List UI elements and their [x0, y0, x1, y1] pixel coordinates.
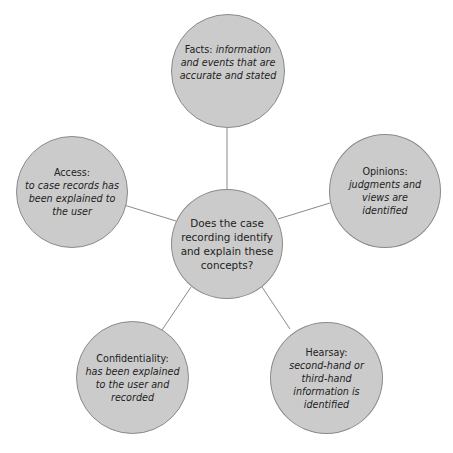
connector-confidentiality: [162, 287, 191, 330]
opinions-title: Opinions:: [362, 165, 407, 178]
connector-hearsay: [262, 287, 290, 329]
connector-access: [124, 205, 176, 221]
hearsay-title: Hearsay:: [305, 346, 347, 359]
opinions-desc: judgments and views are identified: [336, 178, 434, 217]
node-opinions: Opinions: judgments and views are identi…: [329, 134, 441, 248]
facts-title: Facts:: [185, 44, 216, 55]
facts-text: Facts: information and events that are a…: [178, 43, 278, 82]
node-center-question: Does the case recording identify and exp…: [171, 189, 283, 299]
center-question-text: Does the case recording identify and exp…: [176, 216, 278, 272]
confidentiality-desc: has been explained to the user and recor…: [83, 365, 182, 404]
confidentiality-title: Confidentiality:: [96, 352, 168, 365]
hearsay-desc: second-hand or third-hand information is…: [277, 359, 376, 411]
node-access: Access: to case records has been explain…: [16, 136, 128, 248]
access-title: Access:: [54, 166, 90, 179]
access-desc: to case records has been explained to th…: [23, 179, 121, 218]
node-facts: Facts: information and events that are a…: [171, 14, 285, 128]
connector-opinions: [278, 203, 330, 219]
node-hearsay: Hearsay: second-hand or third-hand infor…: [270, 322, 383, 434]
node-confidentiality: Confidentiality: has been explained to t…: [76, 321, 189, 434]
